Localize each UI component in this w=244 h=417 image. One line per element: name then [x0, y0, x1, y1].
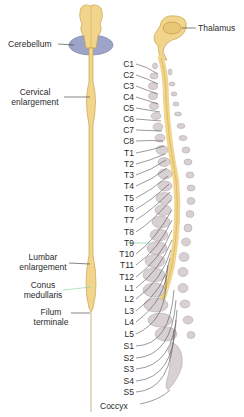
segment-label-c7: C7	[110, 125, 134, 135]
segment-label-t5: T5	[110, 193, 134, 203]
lumbar-enlargement-label: Lumbar enlargement	[14, 252, 72, 272]
segment-label-l3: L3	[110, 306, 134, 316]
segment-label-c5: C5	[110, 103, 134, 113]
segment-label-t6: T6	[110, 204, 134, 214]
segment-label-s3: S3	[110, 364, 134, 374]
segment-label-s4: S4	[110, 376, 134, 386]
segment-label-s2: S2	[110, 353, 134, 363]
segment-label-l4: L4	[110, 317, 134, 327]
segment-label-t11: T11	[110, 260, 134, 270]
segment-label-t9: T9	[110, 238, 134, 248]
segment-label-l5: L5	[110, 329, 134, 339]
segment-label-t1: T1	[110, 148, 134, 158]
filum-terminale-label: Filum terminale	[26, 307, 76, 327]
segment-label-t4: T4	[110, 181, 134, 191]
thalamus-label: Thalamus	[198, 23, 235, 33]
segment-label-l1: L1	[110, 283, 134, 293]
segment-label-t2: T2	[110, 159, 134, 169]
segment-label-s5: S5	[110, 387, 134, 397]
segment-label-c6: C6	[110, 114, 134, 124]
segment-label-c1: C1	[110, 59, 134, 69]
spinous-processes	[168, 69, 195, 339]
segment-label-t8: T8	[110, 227, 134, 237]
lateral-spine-view	[128, 16, 196, 404]
spinal-cord-shape	[86, 48, 96, 312]
segment-label-l2: L2	[110, 294, 134, 304]
segment-label-t7: T7	[110, 215, 134, 225]
segment-label-t10: T10	[110, 249, 134, 259]
segment-label-c3: C3	[110, 81, 134, 91]
cerebellum-label: Cerebellum	[8, 39, 51, 49]
segment-label-t12: T12	[110, 272, 134, 282]
conus-medullaris-label: Conus medullaris	[18, 280, 68, 300]
segment-label-c2: C2	[110, 70, 134, 80]
posterior-cord-view	[58, 5, 113, 412]
segment-label-c8: C8	[110, 136, 134, 146]
coccyx-label: Coccyx	[100, 401, 128, 411]
segment-label-c4: C4	[110, 92, 134, 102]
segment-label-t3: T3	[110, 170, 134, 180]
segment-label-s1: S1	[110, 341, 134, 351]
cervical-enlargement-label: Cervical enlargement	[6, 87, 64, 107]
